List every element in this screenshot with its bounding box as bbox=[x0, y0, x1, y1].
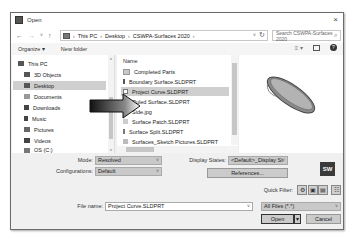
navigation-bar: ← → ˅ ↑ › This PC › Desktop › CSWPA-Surf… bbox=[11, 27, 343, 43]
folder-location-icon bbox=[63, 33, 70, 39]
sidebar-item-label: OS (C:) bbox=[34, 147, 53, 153]
sidebar-item-desktop[interactable]: Desktop bbox=[13, 81, 106, 90]
mode-select[interactable]: Resolved ˅ bbox=[95, 156, 162, 165]
sidebar-item-os-c[interactable]: OS (C:) bbox=[24, 147, 108, 153]
breadcrumb-separator: › bbox=[128, 33, 130, 39]
organize-button[interactable]: Organize ▾ bbox=[18, 46, 45, 52]
open-button[interactable]: Open bbox=[261, 214, 294, 224]
downloads-icon bbox=[24, 105, 29, 110]
breadcrumb-desktop[interactable]: Desktop bbox=[105, 33, 125, 39]
breadcrumb-current-folder[interactable]: CSWPA-Surfaces 2020 bbox=[133, 33, 190, 39]
display-states-value: <Default>_Display St bbox=[231, 157, 283, 163]
address-bar[interactable]: › This PC › Desktop › CSWPA-Surfaces 202… bbox=[60, 30, 268, 41]
preview-pane-icon[interactable] bbox=[313, 45, 320, 51]
file-item-surfaces-sketch-pictures[interactable]: Surfaces_Sketch Pictures.SLDPRT bbox=[121, 137, 229, 146]
part-file-icon bbox=[123, 119, 128, 124]
pictures-icon bbox=[24, 127, 30, 132]
chevron-down-icon: ˅ bbox=[335, 203, 338, 210]
file-name: Boundary Surface.SLDPRT bbox=[129, 79, 196, 85]
open-dialog: Open × ← → ˅ ↑ › This PC › Desktop › CSW… bbox=[10, 12, 344, 230]
file-name: Surface Split.SLDPRT bbox=[129, 129, 183, 135]
mode-label: Mode: bbox=[63, 157, 93, 163]
file-item-boundary-surface[interactable]: Boundary Surface.SLDPRT bbox=[121, 77, 229, 86]
search-placeholder: Search CSWPA-Surfaces 2020 bbox=[276, 30, 340, 42]
sidebar-item-label: Documents bbox=[34, 94, 62, 100]
file-name-value: Project Curve.SLDPRT bbox=[108, 203, 164, 209]
close-icon[interactable]: × bbox=[333, 15, 338, 24]
sidebar-item-this-pc[interactable]: This PC bbox=[18, 59, 108, 68]
quick-filter-drawings-button[interactable]: ▤ bbox=[318, 185, 328, 195]
sidebar-item-label: This PC bbox=[28, 61, 48, 67]
file-name: Completed Parts bbox=[134, 69, 175, 75]
new-folder-button[interactable]: New folder bbox=[61, 46, 87, 52]
sidebar-item-label: Downloads bbox=[33, 105, 60, 111]
chevron-down-icon: ˅ bbox=[156, 157, 159, 164]
part-file-icon bbox=[123, 79, 125, 84]
forward-button[interactable]: → bbox=[28, 32, 35, 39]
drive-icon bbox=[24, 148, 30, 153]
scrollbar-thumb[interactable] bbox=[232, 63, 237, 135]
file-name: Surface Patch.SLDPRT bbox=[132, 119, 190, 125]
display-states-label: Display States: bbox=[179, 157, 226, 163]
refresh-icon[interactable]: ↻ bbox=[259, 31, 265, 39]
part-file-icon bbox=[123, 129, 125, 134]
sidebar-item-label: 3D Objects bbox=[34, 72, 61, 78]
quick-filter-assemblies-button[interactable]: ▣ bbox=[308, 185, 318, 195]
change-view-icon[interactable]: ≡ ▾ bbox=[295, 44, 303, 51]
solidworks-logo: SW bbox=[320, 162, 335, 176]
file-item-surface-split[interactable]: Surface Split.SLDPRT bbox=[121, 127, 229, 136]
address-dropdown-icon[interactable]: ˅ bbox=[253, 32, 256, 38]
breadcrumb-this-pc[interactable]: This PC bbox=[78, 33, 98, 39]
3d-objects-icon bbox=[24, 72, 30, 77]
preview-pane bbox=[239, 55, 343, 153]
display-states-select[interactable]: <Default>_Display St ˅ bbox=[228, 156, 288, 165]
search-icon[interactable]: ⌕ bbox=[334, 32, 337, 39]
cancel-button[interactable]: Cancel bbox=[306, 214, 341, 224]
sidebar-item-label: Videos bbox=[34, 138, 51, 144]
sidebar-item-label: Pictures bbox=[34, 127, 54, 133]
callout-arrow-icon bbox=[89, 93, 141, 119]
quick-filter-parts-button[interactable]: ⚙ bbox=[297, 185, 307, 195]
chevron-down-icon: ˅ bbox=[282, 157, 285, 164]
open-options-button[interactable]: ▾ bbox=[294, 214, 301, 224]
desktop-icon bbox=[24, 83, 30, 88]
quick-filter-label: Quick Filter: bbox=[261, 187, 293, 193]
up-button[interactable]: ↑ bbox=[48, 32, 52, 39]
column-header-name[interactable]: Name bbox=[123, 58, 138, 64]
file-name: Surfaces_Sketch Pictures.SLDPRT bbox=[132, 139, 218, 145]
file-list-horizontal-scrollbar[interactable] bbox=[117, 146, 238, 153]
search-input[interactable]: Search CSWPA-Surfaces 2020 ⌕ bbox=[272, 30, 341, 41]
chevron-down-icon[interactable]: ˅ bbox=[247, 203, 250, 210]
sidebar-item-pictures[interactable]: Pictures bbox=[24, 125, 108, 134]
videos-icon bbox=[24, 138, 30, 143]
sidebar-item-label: Music bbox=[32, 116, 46, 122]
quick-filter-top-level-button[interactable]: ☷ bbox=[331, 185, 341, 195]
file-list-vertical-scrollbar[interactable] bbox=[231, 55, 238, 145]
sidebar-item-videos[interactable]: Videos bbox=[24, 136, 108, 145]
file-type-select[interactable]: All Files (*.*) ˅ bbox=[261, 202, 341, 211]
part-file-icon bbox=[123, 139, 128, 144]
file-item-completed-parts[interactable]: Completed Parts bbox=[121, 67, 229, 76]
command-toolbar: Organize ▾ New folder ≡ ▾ ? bbox=[11, 43, 343, 55]
window-title: Open bbox=[27, 17, 42, 23]
configurations-select[interactable]: Default ˅ bbox=[95, 167, 162, 176]
scrollbar-thumb[interactable] bbox=[126, 147, 154, 152]
part-preview-image bbox=[239, 55, 343, 153]
recent-locations-button[interactable]: ˅ bbox=[40, 32, 43, 38]
help-icon[interactable]: ? bbox=[330, 44, 337, 51]
scroll-up-icon[interactable]: ˄ bbox=[108, 56, 114, 61]
breadcrumb-separator[interactable]: › bbox=[193, 33, 195, 39]
breadcrumb-separator: › bbox=[73, 33, 75, 39]
file-name-input[interactable]: Project Curve.SLDPRT ˅ bbox=[105, 202, 253, 211]
app-icon bbox=[15, 16, 23, 24]
computer-icon bbox=[18, 61, 24, 66]
scroll-down-icon[interactable]: ˅ bbox=[108, 147, 114, 152]
back-button[interactable]: ← bbox=[16, 32, 23, 39]
sidebar-item-3d-objects[interactable]: 3D Objects bbox=[24, 70, 108, 79]
folder-icon bbox=[123, 69, 130, 75]
sidebar-item-label: Desktop bbox=[34, 83, 54, 89]
breadcrumb-separator: › bbox=[100, 33, 102, 39]
configurations-value: Default bbox=[98, 168, 115, 174]
references-button[interactable]: References... bbox=[207, 168, 288, 178]
music-icon bbox=[24, 116, 28, 121]
